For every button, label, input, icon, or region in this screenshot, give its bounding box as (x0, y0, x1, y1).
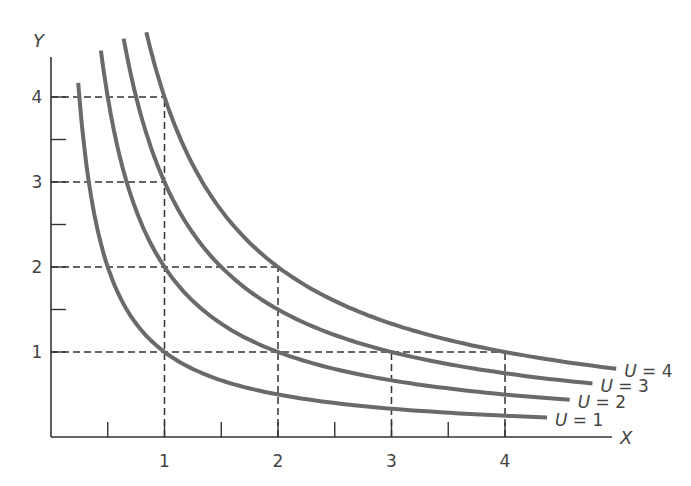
x-tick-label: 3 (386, 451, 397, 471)
indifference-curves-chart: 12341234 Y X U = 1U = 2U = 3U = 4 (0, 0, 691, 486)
indifference-curve-u2 (101, 51, 570, 400)
y-tick-label: 2 (32, 257, 43, 277)
x-axis-title: X (619, 427, 633, 448)
y-tick-label: 3 (32, 172, 43, 192)
curve-label-u1: U = 1 (555, 410, 603, 430)
x-tick-label: 1 (159, 451, 170, 471)
axes (51, 57, 612, 437)
y-tick-label: 4 (32, 87, 43, 107)
x-tick-label: 4 (500, 451, 511, 471)
x-tick-label: 2 (273, 451, 284, 471)
y-tick-label: 1 (32, 342, 43, 362)
curve-labels: U = 1U = 2U = 3U = 4 (555, 361, 673, 430)
y-axis-title: Y (33, 30, 46, 51)
curve-label-u4: U = 4 (624, 361, 672, 381)
indifference-curve-u3 (124, 39, 593, 384)
indifference-curves (78, 32, 616, 417)
